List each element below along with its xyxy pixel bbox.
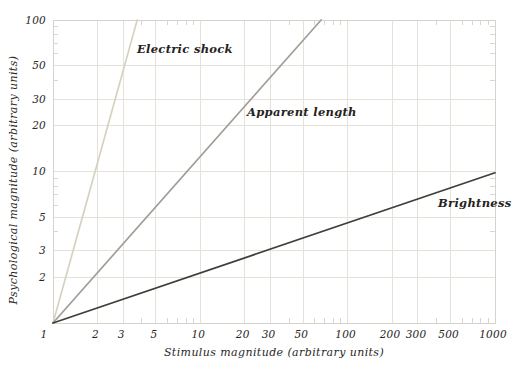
- y-tick-label: 30: [32, 93, 46, 105]
- series-label-apparent-length: Apparent length: [247, 105, 357, 119]
- x-tick-label: 100: [335, 328, 356, 340]
- x-tick-label: 3: [118, 328, 125, 340]
- y-tick-label: 3: [39, 244, 46, 256]
- x-tick-label: 10: [191, 328, 205, 340]
- x-tick-label: 2: [91, 328, 99, 340]
- y-tick-label: 20: [31, 119, 46, 131]
- series-label-brightness: Brightness: [438, 196, 512, 210]
- x-tick-label: 1: [41, 328, 48, 340]
- series-label-electric-shock: Electric shock: [137, 42, 233, 56]
- y-tick-label: 100: [25, 14, 46, 26]
- x-tick-label: 300: [406, 328, 427, 340]
- x-tick-label: 500: [438, 328, 459, 340]
- stevens-power-law-chart: 1235102030501002003005001000235102030501…: [0, 0, 521, 375]
- y-tick-label: 5: [39, 211, 46, 223]
- x-tick-label: 1000: [479, 328, 507, 340]
- x-tick-label: 5: [151, 328, 158, 340]
- y-tick-label: 10: [32, 165, 46, 177]
- plot-area: 1235102030501002003005001000235102030501…: [0, 0, 521, 375]
- x-tick-label: 200: [379, 328, 401, 340]
- x-tick-label: 20: [235, 328, 250, 340]
- x-tick-label: 30: [262, 328, 276, 340]
- y-axis-title: Psychological magnitude (arbitrary units…: [7, 56, 20, 305]
- x-tick-label: 50: [294, 328, 308, 340]
- y-tick-label: 2: [38, 271, 46, 283]
- y-tick-label: 50: [32, 59, 46, 71]
- x-axis-title: Stimulus magnitude (arbitrary units): [164, 346, 384, 359]
